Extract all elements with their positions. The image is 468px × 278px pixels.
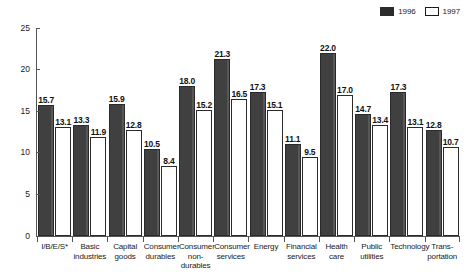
y-axis-tick-label: 5 bbox=[25, 190, 36, 199]
bar-value-label: 13.1 bbox=[408, 118, 424, 127]
x-axis-label: Energy bbox=[248, 242, 283, 276]
x-axis-label-line: care bbox=[329, 252, 344, 261]
x-axis-label-line: Financial bbox=[286, 242, 317, 251]
bar-wrapper: 21.3 bbox=[214, 28, 230, 236]
x-axis-label: Consumernon-durables bbox=[178, 242, 213, 276]
x-axis-label: Financialservices bbox=[284, 242, 319, 276]
bar-value-label: 10.7 bbox=[443, 138, 459, 147]
x-axis-label-line: Trans- bbox=[431, 242, 453, 251]
bar-value-label: 21.3 bbox=[214, 50, 230, 59]
legend-item-1996: 1996 bbox=[380, 7, 415, 16]
bar-chart: 1996 1997 0510152025 15.713.113.311.915.… bbox=[0, 0, 468, 278]
y-axis-tick-mark bbox=[36, 194, 40, 195]
y-axis-tick-mark bbox=[36, 69, 40, 70]
bar-value-label: 15.9 bbox=[109, 95, 125, 104]
x-axis-label: Consumerservices bbox=[213, 242, 248, 276]
bar-value-label: 16.5 bbox=[231, 90, 247, 99]
bar-wrapper: 18.0 bbox=[179, 28, 195, 236]
bar-wrapper: 12.8 bbox=[126, 28, 142, 236]
x-axis-label: Publicutilities bbox=[354, 242, 389, 276]
bar-1996: 17.3 bbox=[250, 92, 266, 236]
bar-1996: 13.3 bbox=[73, 125, 89, 236]
bar-group: 21.316.5 bbox=[213, 28, 248, 236]
bar-value-label: 13.4 bbox=[372, 116, 388, 125]
x-axis-label: I/B/E/S* bbox=[37, 242, 72, 276]
bar-1997: 12.8 bbox=[126, 130, 142, 236]
x-axis-label-line: Health bbox=[325, 242, 347, 251]
bar-group: 17.315.1 bbox=[248, 28, 283, 236]
legend-item-1997: 1997 bbox=[425, 7, 460, 16]
bar-1996: 22.0 bbox=[320, 53, 336, 236]
y-axis-tick-mark bbox=[36, 152, 40, 153]
bar-1997: 15.2 bbox=[196, 110, 212, 236]
bar-group: 22.017.0 bbox=[319, 28, 354, 236]
y-axis-tick-label: 10 bbox=[21, 148, 36, 157]
bar-group: 13.311.9 bbox=[72, 28, 107, 236]
bar-value-label: 17.3 bbox=[250, 83, 266, 92]
bar-group: 10.58.4 bbox=[143, 28, 178, 236]
x-axis-label: Consumerdurables bbox=[143, 242, 178, 276]
x-axis-label-line: Energy bbox=[254, 242, 278, 251]
x-axis-label: Healthcare bbox=[319, 242, 354, 276]
x-axis-label: Technology bbox=[389, 242, 424, 276]
x-axis-label-line: Consumer bbox=[179, 242, 215, 251]
x-axis-labels: I/B/E/S*BasicindustriesCapitalgoodsConsu… bbox=[37, 242, 460, 276]
bar-value-label: 12.8 bbox=[126, 121, 142, 130]
bar-wrapper: 13.3 bbox=[73, 28, 89, 236]
bar-groups: 15.713.113.311.915.912.810.58.418.015.22… bbox=[37, 28, 460, 236]
bar-wrapper: 15.7 bbox=[38, 28, 54, 236]
bar-group: 17.313.1 bbox=[389, 28, 424, 236]
plot-area: 0510152025 15.713.113.311.915.912.810.58… bbox=[36, 28, 460, 236]
bar-wrapper: 13.1 bbox=[407, 28, 423, 236]
bar-wrapper: 16.5 bbox=[231, 28, 247, 236]
bar-group: 11.19.5 bbox=[284, 28, 319, 236]
bar-1997: 17.0 bbox=[337, 95, 353, 236]
bar-wrapper: 15.9 bbox=[109, 28, 125, 236]
y-axis-tick-label: 25 bbox=[21, 24, 36, 33]
y-axis-tick-mark bbox=[36, 111, 40, 112]
bar-wrapper: 9.5 bbox=[302, 28, 318, 236]
x-axis-label-line: durables bbox=[146, 252, 176, 261]
y-axis-tick: 0 bbox=[0, 231, 36, 241]
x-axis-label-line: Consumer bbox=[214, 242, 250, 251]
x-axis-label-line: goods bbox=[115, 252, 136, 261]
bar-1996: 11.1 bbox=[285, 144, 301, 236]
bar-value-label: 11.9 bbox=[91, 128, 106, 137]
bar-1997: 9.5 bbox=[302, 157, 318, 236]
bar-group: 18.015.2 bbox=[178, 28, 213, 236]
chart-legend: 1996 1997 bbox=[380, 5, 460, 17]
y-axis-tick: 10 bbox=[0, 148, 36, 158]
bar-wrapper: 17.3 bbox=[390, 28, 406, 236]
bar-wrapper: 13.4 bbox=[372, 28, 388, 236]
bar-wrapper: 12.8 bbox=[426, 28, 442, 236]
bar-value-label: 18.0 bbox=[179, 77, 195, 86]
bar-value-label: 15.1 bbox=[267, 101, 283, 110]
y-axis-tick: 5 bbox=[0, 189, 36, 199]
bar-value-label: 8.4 bbox=[163, 157, 174, 166]
legend-swatch-1996 bbox=[380, 7, 394, 16]
bar-1996: 14.7 bbox=[355, 114, 371, 236]
bar-value-label: 9.5 bbox=[304, 148, 315, 157]
bar-1996: 10.5 bbox=[144, 149, 160, 236]
bar-wrapper: 15.2 bbox=[196, 28, 212, 236]
y-axis-tick: 20 bbox=[0, 65, 36, 75]
x-axis-label-line: utilities bbox=[360, 252, 383, 261]
bar-wrapper: 15.1 bbox=[267, 28, 283, 236]
y-axis-tick-label: 15 bbox=[21, 107, 36, 116]
bar-1997: 13.1 bbox=[407, 127, 423, 236]
legend-label-1996: 1996 bbox=[398, 7, 415, 16]
bar-group: 15.912.8 bbox=[107, 28, 142, 236]
x-axis-label-line: durables bbox=[181, 261, 211, 270]
bar-1997: 15.1 bbox=[267, 110, 283, 236]
bar-value-label: 13.1 bbox=[55, 118, 71, 127]
bar-1997: 10.7 bbox=[443, 147, 459, 236]
bar-value-label: 22.0 bbox=[320, 44, 336, 53]
x-axis-label-line: Capital bbox=[113, 242, 137, 251]
x-axis-label-line: Technology bbox=[390, 242, 429, 251]
x-axis-label-line: portation bbox=[427, 252, 457, 261]
bar-wrapper: 8.4 bbox=[161, 28, 177, 236]
bar-1997: 13.4 bbox=[372, 125, 388, 236]
x-axis-label-line: non- bbox=[188, 252, 203, 261]
bar-wrapper: 11.9 bbox=[90, 28, 106, 236]
x-axis-label-line: industries bbox=[73, 252, 106, 261]
